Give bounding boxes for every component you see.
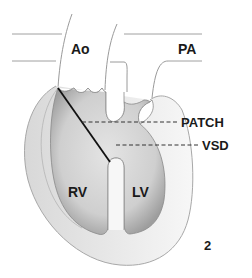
label-lv: LV bbox=[132, 184, 150, 200]
vessel-lines bbox=[12, 34, 202, 61]
label-rv: RV bbox=[68, 184, 88, 200]
label-pa: PA bbox=[178, 41, 196, 57]
figure-number: 2 bbox=[204, 238, 211, 253]
interventricular-septum bbox=[108, 158, 124, 230]
label-vsd: VSD bbox=[202, 138, 229, 153]
heart-diagram: Ao PA PATCH VSD RV LV 2 bbox=[0, 0, 252, 278]
outlet-septum bbox=[106, 92, 124, 122]
label-patch: PATCH bbox=[181, 115, 224, 130]
label-ao: Ao bbox=[71, 41, 90, 57]
